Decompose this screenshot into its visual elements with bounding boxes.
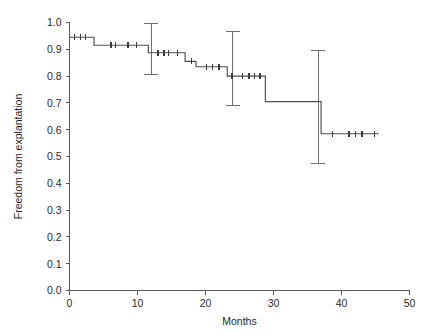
y-tick-label: 0.0	[47, 284, 62, 296]
x-tick-label: 20	[200, 297, 212, 309]
chart-figure: 0.00.10.20.30.40.50.60.70.80.91.00102030…	[0, 0, 421, 331]
x-tick-label: 30	[268, 297, 280, 309]
y-tick-label: 0.8	[47, 70, 62, 82]
y-tick-label: 0.7	[47, 97, 62, 109]
y-tick-label: 0.9	[47, 43, 62, 55]
x-tick-label: 50	[404, 297, 416, 309]
y-tick-label: 0.6	[47, 124, 62, 136]
kaplan-meier-plot: 0.00.10.20.30.40.50.60.70.80.91.00102030…	[0, 0, 421, 331]
x-tick-label: 40	[336, 297, 348, 309]
y-tick-label: 0.2	[47, 231, 62, 243]
y-tick-label: 0.4	[47, 177, 62, 189]
y-tick-label: 0.3	[47, 204, 62, 216]
x-tick-label: 0	[67, 297, 73, 309]
x-tick-label: 10	[132, 297, 144, 309]
y-tick-label: 0.1	[47, 258, 62, 270]
x-axis-title: Months	[222, 315, 256, 327]
y-axis-title: Freedom from explantation	[12, 94, 24, 220]
y-tick-label: 1.0	[47, 16, 62, 28]
survival-step-curve	[70, 37, 379, 133]
y-tick-label: 0.5	[47, 150, 62, 162]
